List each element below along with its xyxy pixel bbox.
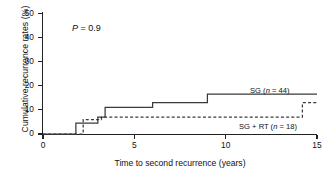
chart-figure: Cumulative recurrence rates (%) Time to … — [0, 0, 335, 179]
curves-svg — [0, 0, 335, 179]
series-line-sg — [43, 94, 317, 134]
series-line-sg-rt — [43, 103, 317, 134]
